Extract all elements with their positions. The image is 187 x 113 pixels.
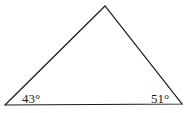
- angle-label-bottom-left: 43°: [22, 92, 40, 105]
- triangle-diagram: 43° 51°: [0, 0, 187, 113]
- angle-label-bottom-right: 51°: [151, 92, 169, 105]
